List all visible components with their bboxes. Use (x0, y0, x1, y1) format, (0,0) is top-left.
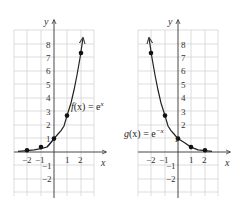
left-point-0 (52, 136, 57, 141)
left-chart: y x −2 −1 1 2 8 7 6 5 4 3 2 1 −1 −2 f(x)… (14, 16, 106, 198)
right-xtick-1: 1 (189, 155, 194, 165)
left-y-label: y (43, 16, 49, 27)
left-ytick-2: 2 (46, 120, 51, 130)
right-ytick-m1: −1 (166, 161, 176, 171)
figure: y x −2 −1 1 2 8 7 6 5 4 3 2 1 −1 −2 f(x)… (0, 0, 242, 204)
left-xtick-m2: −2 (22, 155, 32, 165)
left-ytick-m1: −1 (42, 161, 52, 171)
left-ytick-4: 4 (46, 93, 51, 103)
right-chart: y x −2 −1 1 2 8 7 6 5 4 3 2 1 −1 −2 g(x)… (124, 16, 230, 198)
right-ytick-1: 1 (174, 134, 179, 144)
right-ytick-7: 7 (181, 53, 186, 63)
left-point-m1 (39, 145, 44, 150)
left-ytick-7: 7 (46, 53, 51, 63)
left-curve (18, 38, 83, 151)
left-function-label: f(x) = ex (71, 100, 105, 113)
right-ytick-6: 6 (181, 66, 186, 76)
left-point-m2 (25, 148, 30, 153)
right-ytick-2: 2 (181, 120, 186, 130)
right-xtick-m2: −2 (146, 155, 156, 165)
right-y-label: y (167, 16, 173, 27)
right-xtick-2: 2 (202, 155, 207, 165)
left-point-1 (65, 113, 70, 118)
left-ytick-5: 5 (46, 80, 51, 90)
right-x-label: x (224, 157, 230, 168)
right-ytick-m2: −2 (166, 174, 176, 184)
left-point-2 (79, 51, 84, 56)
left-ytick-1: 1 (46, 134, 51, 144)
right-ytick-4: 4 (181, 93, 186, 103)
right-ytick-8: 8 (181, 40, 186, 50)
left-ytick-3: 3 (46, 107, 51, 117)
left-ytick-8: 8 (46, 40, 51, 50)
right-ytick-5: 5 (181, 80, 186, 90)
left-ytick-m2: −2 (42, 174, 52, 184)
right-point-2 (203, 148, 208, 153)
left-xtick-1: 1 (65, 155, 70, 165)
right-ytick-3: 3 (181, 107, 186, 117)
right-point-m1 (163, 113, 168, 118)
right-point-m2 (149, 51, 154, 56)
left-x-label: x (100, 157, 106, 168)
left-ytick-6: 6 (46, 66, 51, 76)
left-xtick-2: 2 (78, 155, 83, 165)
right-point-1 (189, 145, 194, 150)
